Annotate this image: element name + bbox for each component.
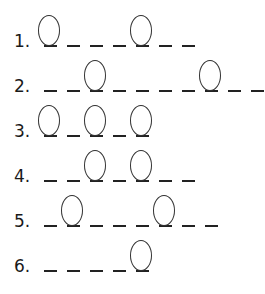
blank-underline bbox=[67, 270, 80, 272]
letter-blank[interactable] bbox=[182, 52, 196, 92]
letter-blank[interactable] bbox=[67, 232, 81, 272]
letter-blank[interactable] bbox=[113, 187, 127, 227]
blank-underline bbox=[113, 270, 126, 272]
circled-letter-blank[interactable] bbox=[136, 7, 150, 47]
letter-blank[interactable] bbox=[205, 187, 219, 227]
letter-blank[interactable] bbox=[90, 232, 104, 272]
letter-blank[interactable] bbox=[90, 187, 104, 227]
oval-circle-icon bbox=[38, 15, 60, 46]
letter-blank[interactable] bbox=[182, 142, 196, 182]
oval-circle-icon bbox=[199, 60, 221, 91]
letter-blank[interactable] bbox=[251, 52, 265, 92]
row-number-label: 6. bbox=[14, 258, 30, 275]
circled-letter-blank[interactable] bbox=[44, 97, 58, 137]
oval-circle-icon bbox=[84, 60, 106, 91]
letter-blank[interactable] bbox=[67, 52, 81, 92]
worksheet-row-6: 6. bbox=[0, 227, 265, 272]
oval-circle-icon bbox=[130, 105, 152, 136]
oval-circle-icon bbox=[130, 15, 152, 46]
letter-blank[interactable] bbox=[113, 232, 127, 272]
oval-circle-icon bbox=[130, 150, 152, 181]
letter-blank[interactable] bbox=[113, 142, 127, 182]
letter-blank[interactable] bbox=[90, 7, 104, 47]
letter-blank[interactable] bbox=[159, 142, 173, 182]
oval-circle-icon bbox=[61, 195, 83, 226]
oval-circle-icon bbox=[84, 150, 106, 181]
oval-circle-icon bbox=[84, 105, 106, 136]
worksheet-row-1: 1. bbox=[0, 2, 265, 47]
oval-circle-icon bbox=[38, 105, 60, 136]
letter-blank[interactable] bbox=[113, 7, 127, 47]
letter-blank[interactable] bbox=[136, 187, 150, 227]
letter-blank[interactable] bbox=[44, 187, 58, 227]
circled-letter-blank[interactable] bbox=[44, 7, 58, 47]
letter-blank[interactable] bbox=[159, 52, 173, 92]
letter-blank[interactable] bbox=[67, 142, 81, 182]
letter-blank[interactable] bbox=[44, 232, 58, 272]
circled-letter-blank[interactable] bbox=[90, 97, 104, 137]
letter-blank[interactable] bbox=[67, 97, 81, 137]
letter-blank[interactable] bbox=[136, 52, 150, 92]
worksheet-row-5: 5. bbox=[0, 182, 265, 227]
circled-letter-blank[interactable] bbox=[90, 52, 104, 92]
letter-blank[interactable] bbox=[182, 187, 196, 227]
letter-blank[interactable] bbox=[44, 52, 58, 92]
letter-blank[interactable] bbox=[228, 52, 242, 92]
worksheet-row-3: 3. bbox=[0, 92, 265, 137]
blank-underline bbox=[44, 270, 57, 272]
letter-blank[interactable] bbox=[44, 142, 58, 182]
circled-letter-blank[interactable] bbox=[136, 97, 150, 137]
circled-letter-blank[interactable] bbox=[90, 142, 104, 182]
oval-circle-icon bbox=[130, 240, 152, 271]
circled-letter-blank[interactable] bbox=[159, 187, 173, 227]
worksheet-row-4: 4. bbox=[0, 137, 265, 182]
letter-blank[interactable] bbox=[113, 97, 127, 137]
letter-blank[interactable] bbox=[113, 52, 127, 92]
letter-blank[interactable] bbox=[67, 7, 81, 47]
circled-letter-blank[interactable] bbox=[136, 232, 150, 272]
circled-letter-blank[interactable] bbox=[67, 187, 81, 227]
letter-blank[interactable] bbox=[182, 7, 196, 47]
blank-underline bbox=[90, 270, 103, 272]
letter-blank[interactable] bbox=[159, 7, 173, 47]
oval-circle-icon bbox=[153, 195, 175, 226]
circled-letter-blank[interactable] bbox=[136, 142, 150, 182]
circled-letter-blank[interactable] bbox=[205, 52, 219, 92]
worksheet-row-2: 2. bbox=[0, 47, 265, 92]
